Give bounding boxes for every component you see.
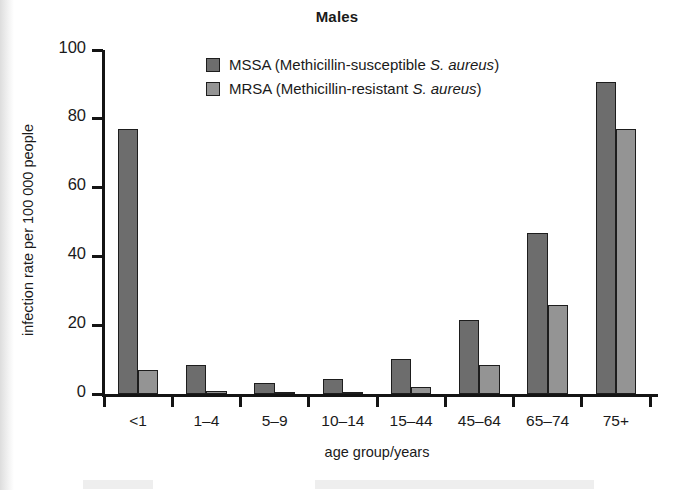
- y-axis-tick-label: 20: [26, 313, 86, 332]
- x-axis-tick-label: 45–64: [458, 412, 501, 430]
- x-axis-tick-label: 1–4: [193, 412, 219, 430]
- legend-swatch-icon: [206, 82, 220, 96]
- chart-title: Males: [0, 8, 674, 25]
- x-axis-tick: [580, 395, 583, 407]
- chart-legend: MSSA (Methicillin-susceptible S. aureus)…: [206, 56, 499, 104]
- bar-mssa-7: [596, 82, 616, 394]
- bar-mssa-6: [527, 233, 547, 394]
- y-axis-tick-label: 0: [26, 382, 86, 401]
- bar-mrsa-4: [411, 387, 431, 394]
- x-axis-tick: [649, 395, 652, 407]
- x-axis-tick-label: 75+: [603, 412, 629, 430]
- bar-mssa-3: [323, 379, 343, 394]
- x-axis-tick: [171, 395, 174, 407]
- y-axis-tick: 40: [92, 255, 103, 258]
- bar-mssa-1: [186, 365, 206, 394]
- bar-mrsa-1: [206, 391, 226, 394]
- x-axis-tick: [103, 395, 106, 407]
- bar-mrsa-6: [548, 305, 568, 394]
- legend-item-label: MSSA (Methicillin-susceptible S. aureus): [229, 56, 499, 73]
- x-axis-tick: [376, 395, 379, 407]
- bar-mssa-2: [254, 383, 274, 394]
- y-axis-tick: 100: [92, 49, 103, 52]
- legend-item-label: MRSA (Methicillin-resistant S. aureus): [229, 80, 482, 97]
- x-axis-tick: [307, 395, 310, 407]
- x-axis-tick-label: 5–9: [262, 412, 288, 430]
- bar-mrsa-7: [616, 129, 636, 394]
- y-axis-line: [102, 50, 105, 397]
- x-axis-tick-label: 65–74: [526, 412, 569, 430]
- x-axis-line: [102, 394, 658, 397]
- bar-mssa-0: [118, 129, 138, 394]
- bar-mrsa-3: [343, 392, 363, 395]
- y-axis-tick-label: 60: [26, 175, 86, 194]
- x-axis-tick-label: 15–44: [390, 412, 433, 430]
- bar-chart-figure: Males infection rate per 100 000 people …: [0, 0, 674, 490]
- bar-mrsa-2: [275, 392, 295, 395]
- legend-item-mssa: MSSA (Methicillin-susceptible S. aureus): [206, 56, 499, 73]
- x-axis-tick: [239, 395, 242, 407]
- y-axis-tick-label: 100: [26, 38, 86, 57]
- y-axis-tick-label: 40: [26, 244, 86, 263]
- x-axis-tick: [444, 395, 447, 407]
- legend-swatch-icon: [206, 58, 220, 72]
- x-axis-title: age group/years: [104, 444, 650, 460]
- bar-mrsa-0: [138, 370, 158, 394]
- bar-mssa-4: [391, 359, 411, 394]
- page-bleed-text: [60, 480, 640, 489]
- x-axis-tick-label: 10–14: [321, 412, 364, 430]
- bar-mssa-5: [459, 320, 479, 394]
- y-axis-tick: 80: [92, 117, 103, 120]
- x-axis-tick-label: <1: [129, 412, 147, 430]
- legend-item-mrsa: MRSA (Methicillin-resistant S. aureus): [206, 80, 499, 97]
- bar-mrsa-5: [479, 365, 499, 394]
- legend-species-name: S. aureus: [412, 80, 476, 97]
- y-axis-tick-label: 80: [26, 106, 86, 125]
- x-axis-tick: [512, 395, 515, 407]
- y-axis-tick: 0: [92, 393, 103, 396]
- y-axis-tick: 20: [92, 324, 103, 327]
- y-axis-tick: 60: [92, 186, 103, 189]
- legend-species-name: S. aureus: [430, 56, 494, 73]
